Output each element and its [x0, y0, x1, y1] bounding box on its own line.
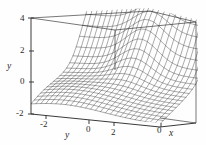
vertical-axis-label: y — [7, 62, 11, 72]
vertical-tick-0: 0 — [20, 77, 25, 86]
horizontal-tick-0: 0 — [157, 126, 162, 135]
vertical-axis — [28, 18, 34, 114]
horizontal-axis-label: x — [169, 129, 173, 139]
depth-axis — [31, 114, 160, 127]
depth-axis-label: y — [65, 131, 69, 141]
surface-plot-figure: 4 2 0 -2 y -2 0 2 y 0 x — [0, 0, 206, 145]
wireframe-surface — [31, 0, 206, 124]
horizontal-axis — [160, 123, 196, 127]
vertical-tick-4: 4 — [20, 14, 25, 23]
plot-canvas — [0, 0, 206, 145]
vertical-tick-2: 2 — [20, 46, 25, 55]
depth-tick-0: 0 — [86, 125, 91, 134]
depth-tick-minus-2: -2 — [40, 120, 48, 129]
depth-tick-2: 2 — [111, 128, 116, 137]
vertical-tick-minus-2: -2 — [16, 109, 24, 118]
